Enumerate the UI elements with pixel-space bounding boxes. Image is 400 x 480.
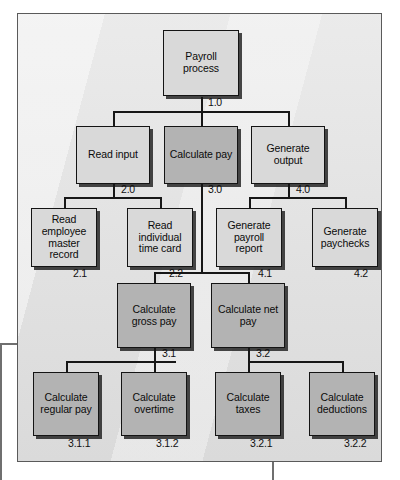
page-frame-fragment-left bbox=[0, 343, 18, 345]
node-label: Calculate pay bbox=[170, 149, 232, 161]
node-read-individual-time-card[interactable]: Read individual time card bbox=[127, 208, 193, 267]
node-label: Read input bbox=[88, 149, 138, 161]
diagram-canvas: Payroll process 1.0 Read input 2.0 Calcu… bbox=[0, 0, 400, 480]
node-ref-3-1: 3.1 bbox=[162, 347, 176, 359]
node-ref-3-1-1: 3.1.1 bbox=[68, 437, 90, 449]
page-frame-fragment-bottom bbox=[272, 462, 274, 480]
connector-to-read-employee-master-record bbox=[64, 197, 66, 208]
connector-to-generate-paychecks bbox=[345, 197, 347, 208]
node-label: Calculate net pay bbox=[215, 304, 281, 328]
node-label: Calculate regular pay bbox=[37, 392, 95, 416]
connector-calculate-pay-spine bbox=[201, 184, 203, 274]
node-calculate-pay[interactable]: Calculate pay bbox=[164, 126, 238, 184]
connector-read-input-stem bbox=[113, 184, 115, 198]
node-generate-output[interactable]: Generate output bbox=[251, 126, 325, 184]
node-ref-2-0: 2.0 bbox=[121, 183, 135, 195]
node-ref-1-0: 1.0 bbox=[208, 96, 222, 108]
connector-generate-output-stem bbox=[288, 184, 290, 198]
node-label: Generate output bbox=[255, 143, 321, 167]
connector-to-calculate-net-pay bbox=[248, 272, 250, 283]
node-label: Calculate deductions bbox=[313, 392, 371, 416]
connector-to-read-individual-time-card bbox=[160, 197, 162, 208]
node-calculate-taxes[interactable]: Calculate taxes bbox=[215, 372, 281, 436]
node-ref-3-2-1: 3.2.1 bbox=[250, 437, 272, 449]
connector-to-calculate-pay bbox=[201, 111, 203, 126]
connector-to-calculate-regular-pay bbox=[66, 361, 68, 372]
node-label: Generate payroll report bbox=[220, 220, 278, 255]
node-ref-4-2: 4.2 bbox=[354, 267, 368, 279]
node-generate-payroll-report[interactable]: Generate payroll report bbox=[216, 208, 282, 267]
node-label: Payroll process bbox=[167, 51, 235, 75]
connector-to-calculate-taxes bbox=[248, 361, 250, 372]
node-label: Calculate overtime bbox=[125, 392, 183, 416]
node-ref-2-1: 2.1 bbox=[73, 267, 87, 279]
connector-net-pay-bus bbox=[248, 361, 343, 363]
node-ref-4-0: 4.0 bbox=[296, 183, 310, 195]
node-payroll-process[interactable]: Payroll process bbox=[163, 30, 239, 96]
connector-root-stem bbox=[201, 97, 203, 112]
page-frame-fragment-left-vertical bbox=[0, 343, 2, 480]
node-ref-3-2-2: 3.2.2 bbox=[344, 437, 366, 449]
node-read-employee-master-record[interactable]: Read employee master record bbox=[31, 208, 97, 267]
connector-gross-pay-stem bbox=[154, 348, 156, 362]
node-label: Read individual time card bbox=[131, 220, 189, 255]
node-calculate-deductions[interactable]: Calculate deductions bbox=[309, 372, 375, 436]
node-calculate-regular-pay[interactable]: Calculate regular pay bbox=[33, 372, 99, 436]
node-ref-3-1-2: 3.1.2 bbox=[156, 437, 178, 449]
node-label: Calculate taxes bbox=[219, 392, 277, 416]
node-label: Read employee master record bbox=[35, 214, 93, 261]
node-ref-3-2: 3.2 bbox=[256, 347, 270, 359]
node-ref-3-0: 3.0 bbox=[208, 183, 222, 195]
connector-to-calculate-deductions bbox=[342, 361, 344, 372]
node-label: Calculate gross pay bbox=[121, 304, 187, 328]
node-calculate-gross-pay[interactable]: Calculate gross pay bbox=[117, 283, 191, 348]
connector-read-input-bus bbox=[64, 197, 162, 199]
node-calculate-overtime[interactable]: Calculate overtime bbox=[121, 372, 187, 436]
connector-gross-pay-bus bbox=[66, 361, 176, 363]
node-read-input[interactable]: Read input bbox=[76, 126, 150, 184]
node-calculate-net-pay[interactable]: Calculate net pay bbox=[211, 283, 285, 348]
node-label: Generate paychecks bbox=[316, 226, 374, 250]
connector-net-pay-stem bbox=[248, 348, 250, 362]
connector-to-calculate-gross-pay bbox=[154, 272, 156, 283]
node-generate-paychecks[interactable]: Generate paychecks bbox=[312, 208, 378, 267]
connector-to-calculate-overtime bbox=[154, 361, 156, 372]
node-ref-2-2: 2.2 bbox=[169, 267, 183, 279]
connector-to-generate-output bbox=[288, 111, 290, 126]
node-ref-4-1: 4.1 bbox=[258, 267, 272, 279]
connector-generate-output-bus bbox=[249, 197, 347, 199]
connector-to-read-input bbox=[113, 111, 115, 126]
connector-to-generate-payroll-report bbox=[249, 197, 251, 208]
